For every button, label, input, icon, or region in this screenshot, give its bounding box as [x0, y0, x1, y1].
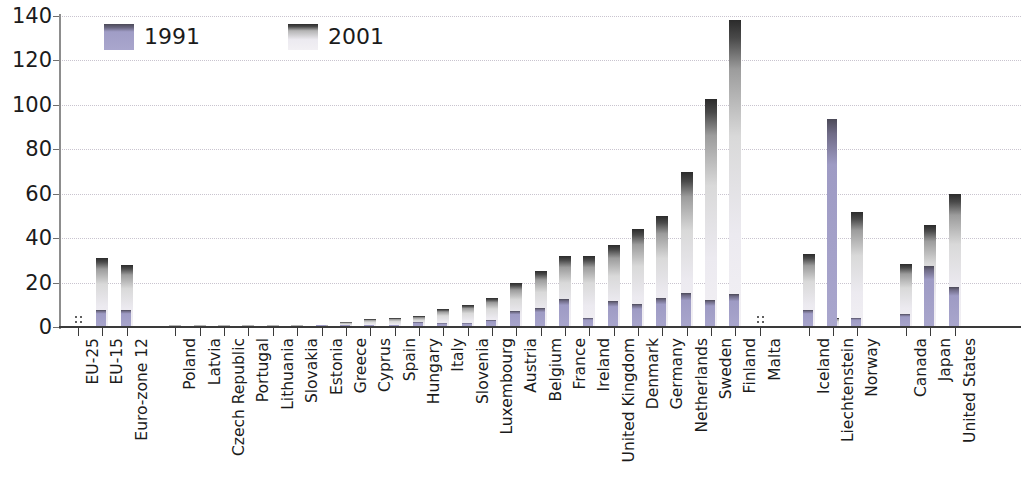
x-axis-label: Latvia	[208, 338, 224, 385]
x-tick-mark	[346, 328, 347, 336]
x-axis-label: Sweden	[719, 338, 735, 399]
bar-2001	[851, 212, 863, 328]
gridline	[60, 16, 1021, 17]
x-axis-label: Belgium	[549, 338, 565, 402]
x-tick-mark	[419, 328, 420, 336]
bar-1991	[949, 287, 959, 327]
x-tick-mark	[200, 328, 201, 336]
x-axis-label: EU-15	[110, 338, 126, 384]
x-tick-mark	[857, 328, 858, 336]
y-tick-label: 100	[0, 94, 52, 115]
gridline	[60, 60, 1021, 61]
x-axis-label: Austria	[524, 338, 540, 393]
x-tick-mark	[565, 328, 566, 336]
x-tick-mark	[760, 328, 761, 336]
x-axis-label: Czech Republic	[232, 338, 248, 456]
bar-1991	[121, 310, 131, 327]
bar-chart: 020406080100120140 EU-25EU-15Euro-zone 1…	[0, 0, 1021, 504]
x-axis-label: Liechtenstein	[841, 338, 857, 442]
x-axis-label: EU-25	[86, 338, 102, 384]
x-tick-mark	[516, 328, 517, 336]
bar-1991	[729, 294, 739, 327]
legend-item-2001[interactable]: 2001	[288, 24, 384, 50]
x-tick-mark	[102, 328, 103, 336]
y-tick-label: 120	[0, 50, 52, 71]
bar-1991	[803, 310, 813, 327]
bar-1991	[681, 293, 691, 327]
x-tick-mark	[735, 328, 736, 336]
x-tick-mark	[443, 328, 444, 336]
x-axis-label: Norway	[865, 338, 881, 397]
gridline	[60, 149, 1021, 150]
bar-2001	[705, 99, 717, 327]
bar-1991	[827, 119, 837, 327]
x-tick-mark	[614, 328, 615, 336]
gridline	[60, 238, 1021, 239]
legend-swatch-2001-icon	[288, 24, 318, 50]
bar-1991	[705, 300, 715, 327]
y-tick-label: 80	[0, 139, 52, 160]
x-tick-mark	[662, 328, 663, 336]
x-tick-mark	[833, 328, 834, 336]
x-axis-label: Denmark	[646, 338, 662, 409]
x-tick-mark	[589, 328, 590, 336]
x-axis-label: Euro-zone 12	[135, 338, 151, 441]
x-tick-mark	[955, 328, 956, 336]
x-axis-label: Slovenia	[476, 338, 492, 404]
x-tick-mark	[370, 328, 371, 336]
x-axis-label: Luxembourg	[500, 338, 516, 435]
x-tick-mark	[224, 328, 225, 336]
x-axis-label: Lithuania	[281, 338, 297, 410]
x-tick-mark	[273, 328, 274, 336]
plot-area	[60, 16, 1021, 327]
no-data-marker	[72, 314, 84, 326]
x-axis-label: France	[573, 338, 589, 390]
x-tick-mark	[809, 328, 810, 336]
x-tick-mark	[297, 328, 298, 336]
x-axis-label: Spain	[403, 338, 419, 381]
x-axis-label: Finland	[743, 338, 759, 393]
legend-item-1991[interactable]: 1991	[104, 24, 200, 50]
x-tick-mark	[492, 328, 493, 336]
x-axis-label: Germany	[670, 338, 686, 409]
bar-1991	[632, 304, 642, 327]
x-tick-mark	[541, 328, 542, 336]
y-axis-labels: 020406080100120140	[0, 0, 52, 340]
x-tick-mark	[711, 328, 712, 336]
x-tick-mark	[468, 328, 469, 336]
x-tick-mark	[906, 328, 907, 336]
legend-label-1991: 1991	[144, 26, 200, 48]
x-axis-label: Ireland	[597, 338, 613, 392]
y-tick-label: 60	[0, 183, 52, 204]
x-axis-label: Portugal	[256, 338, 272, 402]
x-axis-label: Estonia	[330, 338, 346, 395]
x-axis-label: Italy	[451, 338, 467, 372]
bar-1991	[535, 308, 545, 327]
x-tick-mark	[175, 328, 176, 336]
x-axis-label: Slovakia	[305, 338, 321, 403]
bar-1991	[559, 299, 569, 327]
no-data-marker	[754, 314, 766, 326]
bar-1991	[656, 298, 666, 327]
y-tick-label: 0	[0, 317, 52, 338]
x-axis-label: Hungary	[427, 338, 443, 404]
x-axis-label: Poland	[183, 338, 199, 390]
x-tick-mark	[127, 328, 128, 336]
gridline	[60, 105, 1021, 106]
x-axis-label: Canada	[914, 338, 930, 397]
y-tick-label: 140	[0, 6, 52, 27]
x-axis-label: Iceland	[817, 338, 833, 394]
gridline	[60, 194, 1021, 195]
legend-swatch-1991-icon	[104, 24, 134, 50]
x-tick-mark	[687, 328, 688, 336]
x-tick-mark	[395, 328, 396, 336]
legend-label-2001: 2001	[328, 26, 384, 48]
x-tick-mark	[930, 328, 931, 336]
x-axis-label: Netherlands	[695, 338, 711, 432]
bar-1991	[96, 310, 106, 327]
y-axis-line	[59, 14, 61, 329]
x-tick-mark	[78, 328, 79, 336]
x-axis-label: Malta	[768, 338, 784, 381]
x-axis-label: Cyprus	[378, 338, 394, 392]
legend: 1991 2001	[104, 24, 384, 50]
